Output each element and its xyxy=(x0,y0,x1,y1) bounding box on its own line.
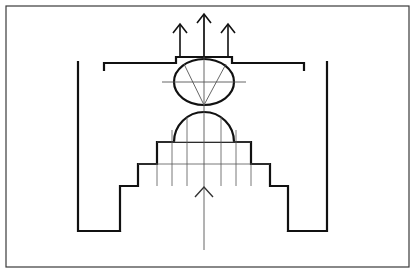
left-vessel-wall xyxy=(78,62,120,231)
diagram-page xyxy=(0,0,415,273)
upward-arrows xyxy=(173,14,235,57)
technical-diagram xyxy=(0,0,415,273)
right-vessel-wall xyxy=(288,62,327,231)
arrow-up-right xyxy=(221,24,235,57)
arrow-up-center xyxy=(197,14,211,57)
arrow-up-left xyxy=(173,24,187,57)
